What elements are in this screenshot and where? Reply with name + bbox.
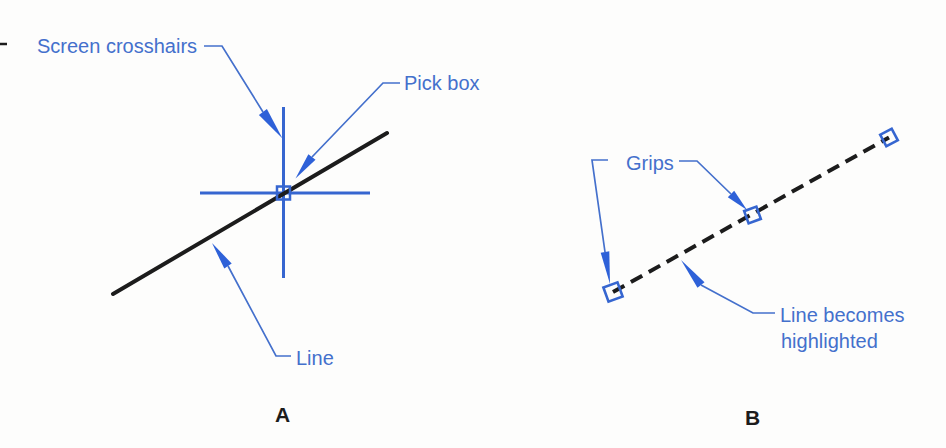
line-becomes-highlighted-label-line2: highlighted [781,330,878,352]
panel-a-letter: A [275,403,290,426]
pick-box-leader-line [312,83,400,157]
line-becomes-highlighted-label-line1: Line becomes [780,304,905,326]
grips-right-leader-line [679,161,731,194]
line-label: Line [296,347,334,369]
screen-crosshairs-label: Screen crosshairs [37,35,197,57]
grips-left-leader-line [592,160,608,252]
screen-crosshairs-arrowhead-icon [259,109,283,139]
figure-canvas: Screen crosshairs Pick box Line A [0,0,946,448]
grips-label: Grips [626,152,674,174]
grip-box-middle [744,207,761,224]
line-becomes-highlighted-arrowhead-icon [681,260,705,288]
grips-left-arrowhead-icon [601,251,610,284]
selection-diagram-figure: Screen crosshairs Pick box Line A [0,0,946,448]
line-leader-line [228,266,291,356]
panel-b-letter: B [745,406,760,429]
screen-crosshairs-leader-line [204,46,263,112]
line-becomes-highlighted-leader-line [701,285,775,313]
panel-a: Screen crosshairs Pick box Line A [0,35,480,426]
panel-b: Grips Line becomes highlighted B [592,129,905,429]
line-arrowhead-icon [212,243,232,269]
line-segment [113,133,387,294]
pick-box-label: Pick box [404,72,480,94]
